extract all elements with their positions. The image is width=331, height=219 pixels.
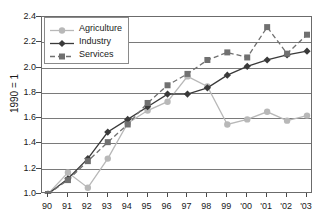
data-point-marker bbox=[105, 155, 111, 161]
x-axis-tick-mark bbox=[246, 193, 247, 197]
x-axis: 90919293949596979899'00'01'02'03 bbox=[41, 193, 312, 219]
x-axis-tick-mark bbox=[87, 193, 88, 197]
data-point-marker bbox=[85, 184, 91, 190]
legend-label: Industry bbox=[79, 36, 111, 46]
data-point-marker bbox=[65, 177, 71, 183]
x-axis-tick-mark bbox=[306, 193, 307, 197]
data-point-marker bbox=[58, 40, 65, 47]
data-point-marker bbox=[304, 32, 310, 38]
legend-item-services[interactable]: Services bbox=[49, 47, 122, 60]
data-point-marker bbox=[244, 54, 250, 60]
y-axis: 1.01.21.41.61.82.02.22.4 bbox=[0, 0, 41, 209]
data-point-marker bbox=[244, 116, 250, 122]
legend-item-agriculture[interactable]: Agriculture bbox=[49, 21, 122, 34]
y-axis-tick-label: 2.0 bbox=[23, 62, 36, 72]
x-axis-tick-mark bbox=[47, 193, 48, 197]
series-agriculture bbox=[45, 73, 310, 194]
data-point-marker bbox=[164, 91, 171, 98]
x-axis-tick-label: 96 bbox=[162, 201, 172, 211]
data-point-marker bbox=[224, 49, 230, 55]
x-axis-tick-mark bbox=[67, 193, 68, 197]
data-point-marker bbox=[224, 72, 231, 79]
y-axis-tick-label: 1.6 bbox=[23, 112, 36, 122]
data-point-marker bbox=[264, 109, 270, 115]
data-point-marker bbox=[204, 57, 210, 63]
x-axis-tick-mark bbox=[286, 193, 287, 197]
data-point-marker bbox=[284, 51, 290, 57]
chart-container: 1990 = 1 1.01.21.41.61.82.02.22.4 909192… bbox=[0, 0, 331, 219]
x-axis-tick-label: 94 bbox=[122, 201, 132, 211]
data-point-marker bbox=[304, 112, 310, 118]
legend-item-industry[interactable]: Industry bbox=[49, 34, 122, 47]
x-axis-tick-label: '01 bbox=[260, 201, 272, 211]
data-point-marker bbox=[85, 158, 91, 164]
data-point-marker bbox=[284, 117, 290, 123]
x-axis-tick-label: 98 bbox=[201, 201, 211, 211]
y-axis-tick-label: 1.0 bbox=[23, 188, 36, 198]
series-industry bbox=[44, 48, 310, 194]
legend-swatch bbox=[49, 22, 75, 33]
x-axis-tick-label: 93 bbox=[102, 201, 112, 211]
x-axis-tick-label: 90 bbox=[42, 201, 52, 211]
x-axis-tick-label: 99 bbox=[221, 201, 231, 211]
x-axis-tick-label: 92 bbox=[82, 201, 92, 211]
data-point-marker bbox=[105, 139, 111, 145]
series-line bbox=[48, 51, 307, 194]
x-axis-tick-label: '00 bbox=[240, 201, 252, 211]
data-point-marker bbox=[59, 54, 65, 60]
y-axis-tick-label: 1.8 bbox=[23, 87, 36, 97]
data-point-marker bbox=[164, 99, 170, 105]
x-axis-tick-label: 97 bbox=[181, 201, 191, 211]
data-point-marker bbox=[184, 71, 190, 77]
legend-label: Services bbox=[79, 49, 114, 59]
x-axis-tick-label: '03 bbox=[300, 201, 312, 211]
x-axis-tick-mark bbox=[127, 193, 128, 197]
data-point-marker bbox=[145, 100, 151, 106]
legend-swatch bbox=[49, 35, 75, 46]
data-point-marker bbox=[264, 56, 271, 63]
x-axis-tick-label: 95 bbox=[142, 201, 152, 211]
x-axis-tick-mark bbox=[107, 193, 108, 197]
data-point-marker bbox=[244, 63, 251, 70]
chart-legend: AgricultureIndustryServices bbox=[44, 17, 129, 64]
x-axis-tick-mark bbox=[147, 193, 148, 197]
x-axis-tick-mark bbox=[266, 193, 267, 197]
data-point-marker bbox=[125, 121, 131, 127]
data-point-marker bbox=[65, 169, 71, 175]
x-axis-tick-mark bbox=[167, 193, 168, 197]
y-axis-tick-label: 1.4 bbox=[23, 137, 36, 147]
data-point-marker bbox=[165, 82, 171, 88]
y-axis-tick-label: 2.4 bbox=[23, 11, 36, 21]
x-axis-tick-label: 91 bbox=[62, 201, 72, 211]
x-axis-tick-mark bbox=[206, 193, 207, 197]
data-point-marker bbox=[59, 27, 65, 33]
data-point-marker bbox=[224, 121, 230, 127]
legend-label: Agriculture bbox=[79, 23, 122, 33]
x-axis-tick-mark bbox=[226, 193, 227, 197]
y-axis-tick-label: 2.2 bbox=[23, 36, 36, 46]
x-axis-tick-mark bbox=[186, 193, 187, 197]
legend-swatch bbox=[49, 48, 75, 59]
data-point-marker bbox=[264, 24, 270, 30]
data-point-marker bbox=[303, 48, 310, 55]
x-axis-tick-label: '02 bbox=[280, 201, 292, 211]
data-point-marker bbox=[184, 91, 191, 98]
y-axis-tick-label: 1.2 bbox=[23, 163, 36, 173]
